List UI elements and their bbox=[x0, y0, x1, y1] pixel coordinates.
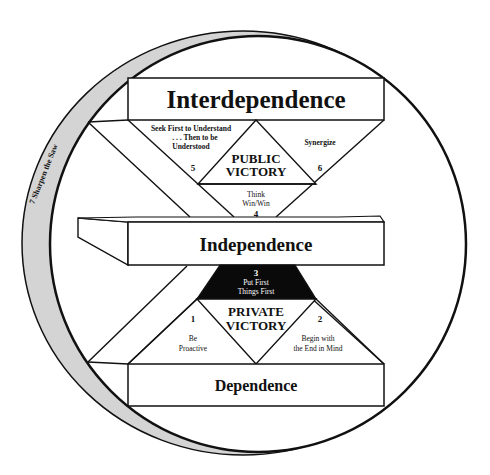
habit-2-number: 2 bbox=[318, 314, 323, 324]
habit-6-number: 6 bbox=[318, 163, 323, 173]
habit-1-line2: Proactive bbox=[179, 344, 208, 353]
habit-2-line1: Begin with bbox=[301, 334, 334, 343]
dependence-label: Dependence bbox=[215, 377, 298, 395]
habit-4-number: 4 bbox=[254, 209, 259, 219]
interdependence-label: Interdependence bbox=[166, 86, 345, 113]
habit-1-number: 1 bbox=[191, 314, 196, 324]
habit-3-number: 3 bbox=[254, 268, 259, 278]
private-victory-line2: VICTORY bbox=[226, 318, 287, 333]
habit-3-line1: Put First bbox=[243, 278, 270, 287]
independence-label: Independence bbox=[200, 234, 313, 255]
habit-2-line2: the End in Mind bbox=[294, 344, 343, 353]
habit-5-line3: Understood bbox=[172, 142, 210, 151]
habit-5-line1: Seek First to Understand bbox=[151, 124, 232, 133]
habit-5-number: 5 bbox=[191, 163, 196, 173]
habit-4-line2: Win/Win bbox=[242, 199, 270, 208]
habit-4-line1: Think bbox=[247, 190, 265, 199]
private-victory-line1: PRIVATE bbox=[228, 304, 284, 319]
habit-6-line1: Synergize bbox=[304, 138, 336, 147]
seven-habits-diagram: Interdependence Independence Dependence … bbox=[0, 0, 490, 475]
habit-5-line2: . . . Then to be bbox=[172, 133, 218, 142]
public-victory-line2: VICTORY bbox=[226, 164, 287, 179]
habit-3-line2: Things First bbox=[238, 287, 275, 296]
habit-1-line1: Be bbox=[189, 334, 198, 343]
